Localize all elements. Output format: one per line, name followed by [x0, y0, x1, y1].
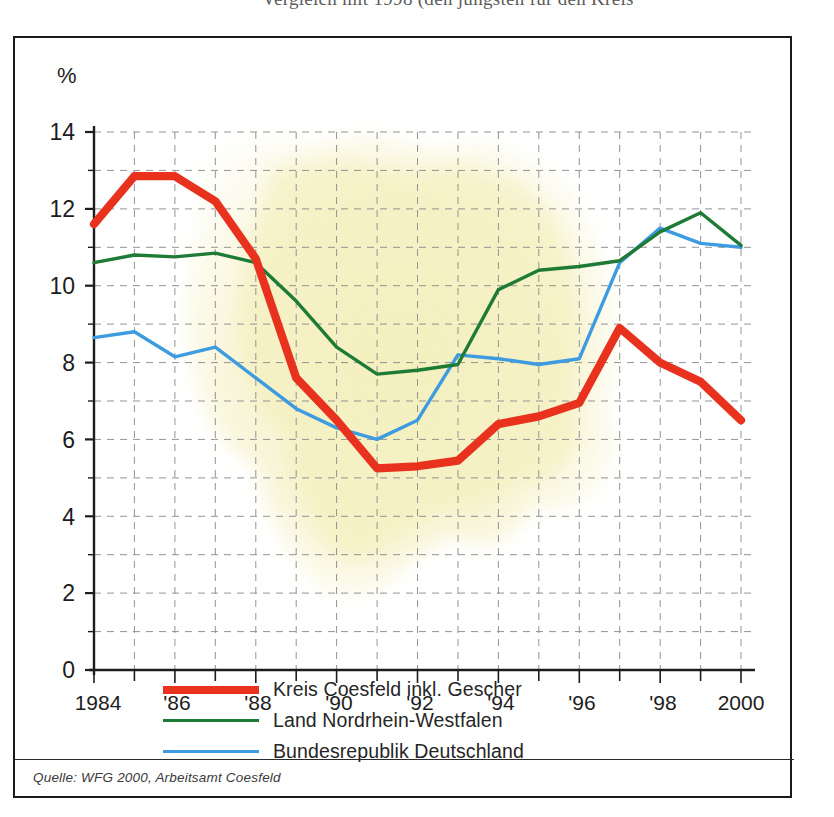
x-tick-label-1984: 1984: [75, 691, 122, 714]
district-map-watermark: [183, 134, 615, 598]
y-tick-label-4: 4: [62, 504, 75, 530]
source-note: Quelle: WFG 2000, Arbeitsamt Coesfeld: [33, 770, 281, 785]
chart-legend: Kreis Coesfeld inkl. Gescher Land Nordrh…: [163, 674, 524, 767]
y-tick-label-6: 6: [62, 427, 75, 453]
legend-item-bundesrepublik: Bundesrepublik Deutschland: [163, 736, 524, 767]
y-axis-unit-label: %: [57, 63, 77, 88]
y-tick-label-10: 10: [49, 273, 75, 299]
y-tick-label-8: 8: [62, 350, 75, 376]
y-tick-label-12: 12: [49, 196, 75, 222]
x-tick-label-2000: 2000: [718, 691, 765, 714]
source-divider: [15, 759, 794, 761]
x-tick-label-1998: '98: [649, 691, 676, 714]
legend-swatch-green: [163, 719, 259, 722]
legend-label-kreis-coesfeld: Kreis Coesfeld inkl. Gescher: [273, 678, 522, 701]
legend-swatch-red: [163, 686, 259, 694]
legend-item-kreis-coesfeld: Kreis Coesfeld inkl. Gescher: [163, 674, 524, 705]
legend-label-land-nrw: Land Nordrhein-Westfalen: [273, 709, 503, 732]
legend-item-land-nrw: Land Nordrhein-Westfalen: [163, 705, 524, 736]
figure-frame: 14 12 10 8 6 4 2 0 % 1984 '86 '88 '90 '9…: [13, 36, 792, 798]
x-tick-label-1996: '96: [568, 691, 595, 714]
y-tick-label-14: 14: [49, 119, 75, 145]
cropped-heading-text: Vergleich mit 1998 (den jüngsten für den…: [262, 0, 634, 10]
cropped-page-heading: Vergleich mit 1998 (den jüngsten für den…: [0, 0, 834, 20]
y-tick-label-2: 2: [62, 580, 75, 606]
y-tick-label-0: 0: [62, 657, 75, 683]
legend-swatch-blue: [163, 750, 259, 753]
